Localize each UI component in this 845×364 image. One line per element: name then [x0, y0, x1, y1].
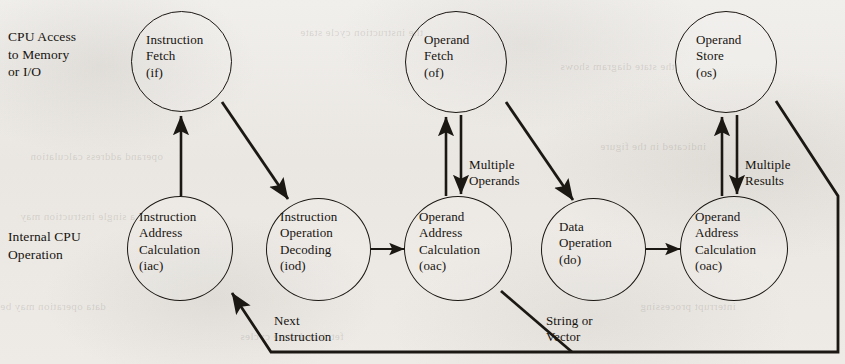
node-label-line: (if) [146, 65, 203, 81]
node-label-line: (os) [696, 65, 741, 81]
row-label-internal-cpu: Internal CPU Operation [8, 228, 81, 263]
node-label-line: Operand [419, 209, 480, 225]
node-oac-2-label: Operand Address Calculation (oac) [695, 209, 756, 275]
node-label-line: Instruction [139, 209, 200, 225]
row-label-line: or I/O [8, 63, 76, 81]
node-label-line: (iod) [280, 258, 337, 274]
edge-label-line: String or [546, 313, 593, 329]
edge-label-line: Results [745, 173, 791, 189]
node-label-line: Data [559, 219, 612, 235]
node-label-line: Address [139, 225, 200, 241]
row-label-line: Internal CPU [8, 228, 81, 246]
node-if-label: Instruction Fetch (if) [146, 32, 203, 81]
node-os-label: Operand Store (os) [696, 32, 741, 81]
edge-label-line: Vector [546, 329, 593, 345]
node-do-label: Data Operation (do) [559, 219, 612, 268]
node-iac-label: Instruction Address Calculation (iac) [139, 209, 200, 275]
row-label-line: CPU Access [8, 28, 76, 46]
node-label-line: Address [419, 225, 480, 241]
node-label-line: Fetch [424, 48, 469, 64]
node-label-line: Address [695, 225, 756, 241]
node-label-line: (oac) [419, 258, 480, 274]
node-oac-1-label: Operand Address Calculation (oac) [419, 209, 480, 275]
node-label-line: Operand [424, 32, 469, 48]
node-label-line: Instruction [280, 209, 337, 225]
node-label-line: Calculation [695, 242, 756, 258]
node-label-line: Operand [696, 32, 741, 48]
node-label-line: Store [696, 48, 741, 64]
node-label-line: (of) [424, 65, 469, 81]
node-label-line: Instruction [146, 32, 203, 48]
node-label-line: (oac) [695, 258, 756, 274]
edge-label-next-instruction: Next Instruction [274, 313, 331, 346]
edge-label-multiple-operands: Multiple Operands [469, 157, 520, 190]
edge-label-line: Instruction [274, 329, 331, 345]
row-label-line: Operation [8, 246, 81, 264]
node-of-label: Operand Fetch (of) [424, 32, 469, 81]
node-label-line: Operand [695, 209, 756, 225]
node-label-line: Fetch [146, 48, 203, 64]
node-label-line: Operation [280, 225, 337, 241]
edge-label-line: Multiple [745, 157, 791, 173]
node-iod-label: Instruction Operation Decoding (iod) [280, 209, 337, 275]
edge-label-line: Multiple [469, 157, 520, 173]
node-label-line: Decoding [280, 242, 337, 258]
edge-if-to-iod [222, 102, 288, 199]
figure-canvas: the instruction cycle state operand addr… [0, 0, 845, 364]
edge-label-line: Next [274, 313, 331, 329]
node-label-line: (do) [559, 252, 612, 268]
edge-label-string-or-vector: String or Vector [546, 313, 593, 346]
node-label-line: (iac) [139, 258, 200, 274]
row-label-line: to Memory [8, 46, 76, 64]
edge-label-multiple-results: Multiple Results [745, 157, 791, 190]
row-label-cpu-access: CPU Access to Memory or I/O [8, 28, 76, 81]
node-label-line: Calculation [419, 242, 480, 258]
edge-label-line: Operands [469, 173, 520, 189]
node-label-line: Calculation [139, 242, 200, 258]
node-label-line: Operation [559, 235, 612, 251]
